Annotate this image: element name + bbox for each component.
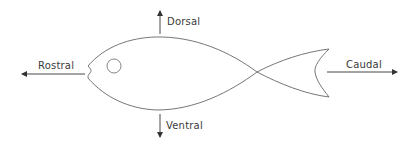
fish-lower-body [88, 72, 329, 110]
fish-eye-icon [107, 59, 121, 73]
ventral-label: Ventral [166, 121, 203, 131]
fish-mouth [88, 66, 91, 78]
fish-outline [88, 37, 329, 110]
fish-tail-fork [315, 49, 329, 97]
fish-orientation-diagram: Dorsal Ventral Rostral Caudal [0, 0, 417, 150]
diagram-svg [0, 0, 417, 150]
caudal-label: Caudal [346, 60, 382, 70]
fish-upper-body [88, 37, 329, 72]
rostral-label: Rostral [38, 61, 74, 71]
dorsal-label: Dorsal [167, 17, 200, 27]
